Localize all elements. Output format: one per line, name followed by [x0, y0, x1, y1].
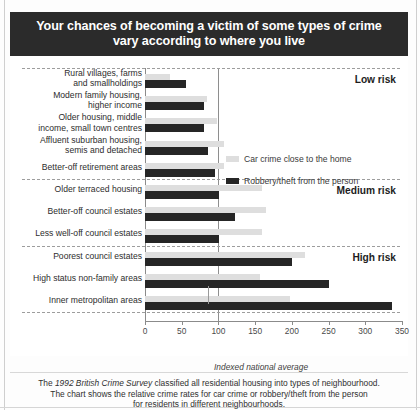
page-title: Your chances of becoming a victim of som…: [26, 19, 392, 49]
x-axis-tick: [145, 321, 146, 325]
chart-panel: 050100150200250300350Rural villages, far…: [10, 56, 408, 356]
category-label: Rural villages, farmsand smallholdings: [2, 68, 142, 88]
legend-label: Robbery/theft from the person: [244, 176, 358, 186]
national-average-tick-stub: [208, 286, 209, 304]
category-label-line: higher income: [88, 100, 142, 110]
category-label: Less well-off council estates: [2, 228, 142, 238]
category-label-line: High status non-family areas: [33, 273, 142, 283]
x-axis-tick-label: 350: [395, 326, 409, 336]
x-axis-tick-label: 300: [358, 326, 372, 336]
national-average-caption: Indexed national average: [214, 362, 308, 372]
category-label: Better-off council estates: [2, 206, 142, 216]
x-axis-line: [145, 321, 402, 322]
risk-band-label: Low risk: [355, 74, 396, 85]
category-label: Older housing, middleincome, small town …: [2, 112, 142, 132]
category-label-line: Better-off council estates: [48, 206, 142, 216]
category-label: Better-off retirement areas: [2, 162, 142, 172]
category-label: Poorest council estates: [2, 251, 142, 261]
footnote-line-3: for residents in different neighbourhood…: [10, 399, 408, 410]
category-label: High status non-family areas: [2, 273, 142, 283]
x-axis-tick: [292, 321, 293, 325]
category-label: Older terraced housing: [2, 184, 142, 194]
category-label-line: Affluent suburban housing,: [40, 135, 142, 145]
category-label-line: Less well-off council estates: [35, 228, 142, 238]
x-axis-tick: [329, 321, 330, 325]
risk-band-label: High risk: [352, 252, 396, 263]
bar-robbery-theft: [145, 235, 219, 243]
category-label-line: Older terraced housing: [55, 184, 142, 194]
bar-robbery-theft: [145, 302, 392, 310]
x-axis-tick-label: 50: [177, 326, 186, 336]
chart-title-banner: Your chances of becoming a victim of som…: [10, 12, 408, 56]
category-label: Inner metropolitan areas: [2, 295, 142, 305]
footnote-line-1-pre: The: [38, 378, 55, 388]
title-line-2: vary according to where you live: [113, 34, 305, 48]
risk-band-separator: [22, 312, 400, 313]
category-label-line: and smallholdings: [73, 78, 142, 88]
page-border-left: [4, 0, 5, 410]
x-axis-tick-label: 250: [322, 326, 336, 336]
x-axis-tick: [402, 321, 403, 325]
bar-robbery-theft: [145, 213, 235, 221]
page-border-right: [416, 0, 417, 410]
chart-footnote: The 1992 British Crime Survey classified…: [10, 378, 408, 410]
footnote-survey-name: 1992 British Crime Survey: [55, 378, 152, 388]
risk-band-separator: [22, 246, 400, 247]
footnote-line-2: The chart shows the relative crime rates…: [10, 389, 408, 400]
footer-divider: [10, 372, 408, 373]
x-axis-tick-label: 0: [143, 326, 148, 336]
bar-robbery-theft: [145, 80, 186, 88]
chart-page: Your chances of becoming a victim of som…: [0, 0, 420, 410]
category-label-line: income, small town centres: [38, 123, 142, 133]
category-label-line: Older housing, middle: [58, 112, 142, 122]
category-label-line: Poorest council estates: [53, 251, 142, 261]
risk-band-separator: [22, 68, 400, 69]
legend-label: Car crime close to the home: [244, 154, 351, 164]
plot-area: 050100150200250300350Rural villages, far…: [10, 56, 408, 356]
category-label: Modern family housing,higher income: [2, 90, 142, 110]
x-axis-tick: [365, 321, 366, 325]
category-label-line: Better-off retirement areas: [42, 162, 142, 172]
bar-robbery-theft: [145, 169, 215, 177]
legend-swatch-robbery-theft: [226, 178, 239, 184]
x-axis-tick: [218, 321, 219, 325]
bar-robbery-theft: [145, 258, 292, 266]
bar-robbery-theft: [145, 191, 219, 199]
x-axis-tick-label: 200: [285, 326, 299, 336]
footnote-line-1: The 1992 British Crime Survey classified…: [10, 378, 408, 389]
bar-robbery-theft: [145, 124, 204, 132]
title-line-1: Your chances of becoming a victim of som…: [36, 19, 382, 33]
bar-robbery-theft: [145, 102, 204, 110]
legend-swatch-car-crime: [226, 156, 239, 162]
x-axis-tick: [182, 321, 183, 325]
bar-robbery-theft: [145, 147, 208, 155]
category-label-line: semis and detached: [65, 145, 142, 155]
category-label-line: Modern family housing,: [53, 90, 142, 100]
bar-robbery-theft: [145, 280, 329, 288]
category-label-line: Rural villages, farms: [64, 68, 142, 78]
risk-band-label: Medium risk: [337, 185, 396, 196]
category-label: Affluent suburban housing,semis and deta…: [2, 135, 142, 155]
footnote-line-1-post: classified all residential housing into …: [152, 378, 380, 388]
x-axis-tick: [255, 321, 256, 325]
x-axis-tick-label: 100: [211, 326, 225, 336]
category-label-line: Inner metropolitan areas: [49, 295, 142, 305]
x-axis-tick-label: 150: [248, 326, 262, 336]
